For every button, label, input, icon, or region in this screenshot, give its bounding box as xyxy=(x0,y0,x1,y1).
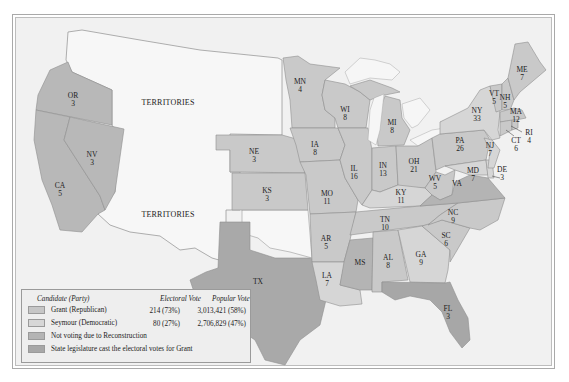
legend-header-electoral: Electoral Vote xyxy=(160,295,201,303)
svg-text:7: 7 xyxy=(520,73,524,82)
legend: Candidate (Party) Electoral Vote Popular… xyxy=(21,289,251,363)
svg-text:4: 4 xyxy=(527,136,531,145)
svg-text:3: 3 xyxy=(90,158,94,167)
legend-electoral-grant: 214 (73%) xyxy=(149,307,180,315)
legend-header-candidate: Candidate (Party) xyxy=(37,295,90,303)
legend-row-not-voting: Not voting due to Reconstruction xyxy=(28,331,147,341)
swatch-seymour xyxy=(28,319,45,327)
svg-text:6: 6 xyxy=(444,239,448,248)
state-fl xyxy=(382,282,470,348)
svg-text:3: 3 xyxy=(71,99,75,108)
legend-label: Grant (Republican) xyxy=(51,306,107,314)
svg-text:8: 8 xyxy=(386,261,390,270)
legend-row-legislature: State legislature cast the electoral vot… xyxy=(28,344,193,354)
legend-label: State legislature cast the electoral vot… xyxy=(51,345,193,353)
svg-text:9: 9 xyxy=(451,216,455,225)
legend-popular-grant: 3,013,421 (58%) xyxy=(197,307,246,315)
svg-text:10: 10 xyxy=(381,223,389,232)
svg-text:MS: MS xyxy=(355,258,366,267)
territories-label-north: TERRITORIES xyxy=(141,98,194,107)
svg-text:33: 33 xyxy=(473,114,481,123)
svg-text:11: 11 xyxy=(397,196,404,205)
svg-text:3: 3 xyxy=(446,312,450,321)
svg-text:5: 5 xyxy=(492,97,496,106)
legend-electoral-seymour: 80 (27%) xyxy=(153,320,180,328)
svg-text:21: 21 xyxy=(410,165,418,174)
svg-text:5: 5 xyxy=(324,242,328,251)
legend-row-seymour: Seymour (Democratic) xyxy=(28,318,117,328)
svg-text:8: 8 xyxy=(390,126,394,135)
legend-header-popular: Popular Vote xyxy=(212,295,250,303)
state-ct xyxy=(500,120,512,136)
swatch-legislature xyxy=(28,345,45,353)
svg-text:12: 12 xyxy=(512,115,520,124)
svg-text:5: 5 xyxy=(433,182,437,191)
legend-label: Not voting due to Reconstruction xyxy=(51,332,147,340)
svg-text:26: 26 xyxy=(456,144,464,153)
svg-text:VA: VA xyxy=(452,179,462,188)
legend-label: Seymour (Democratic) xyxy=(51,319,117,327)
svg-text:11: 11 xyxy=(323,197,330,206)
legend-row-grant: Grant (Republican) xyxy=(28,305,107,315)
svg-text:13: 13 xyxy=(379,169,387,178)
svg-text:6: 6 xyxy=(514,144,518,153)
swatch-not-voting xyxy=(28,332,45,340)
legend-popular-seymour: 2,706,829 (47%) xyxy=(197,320,246,328)
territories-label-south: TERRITORIES xyxy=(141,210,194,219)
svg-text:7: 7 xyxy=(325,279,329,288)
svg-text:16: 16 xyxy=(350,172,358,181)
svg-text:9: 9 xyxy=(419,258,423,267)
svg-text:8: 8 xyxy=(343,113,347,122)
svg-text:7: 7 xyxy=(471,174,475,183)
svg-text:3: 3 xyxy=(265,194,269,203)
svg-text:3: 3 xyxy=(500,173,504,182)
swatch-grant xyxy=(28,306,45,314)
svg-text:4: 4 xyxy=(298,85,302,94)
svg-text:7: 7 xyxy=(488,149,492,158)
svg-text:5: 5 xyxy=(503,101,507,110)
svg-text:8: 8 xyxy=(313,148,317,157)
svg-text:5: 5 xyxy=(58,189,62,198)
svg-text:3: 3 xyxy=(252,155,256,164)
svg-text:TX: TX xyxy=(253,277,264,286)
